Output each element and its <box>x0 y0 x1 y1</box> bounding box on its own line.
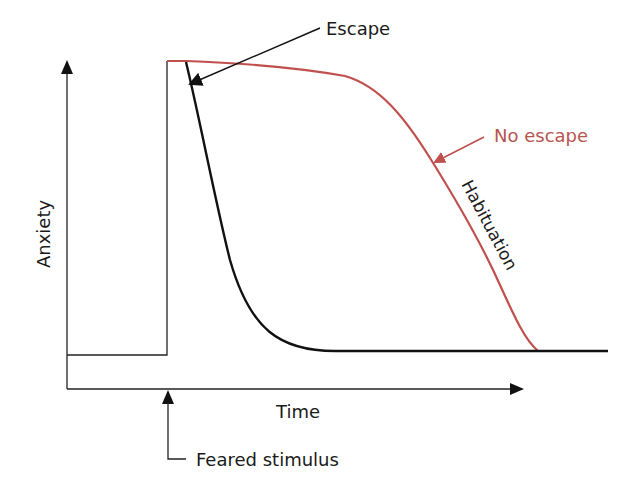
no-escape-arrow-icon <box>435 137 484 162</box>
x-axis-arrow-icon <box>510 383 524 395</box>
feared-stimulus-label: Feared stimulus <box>196 449 339 470</box>
y-axis-arrow-icon <box>61 60 73 74</box>
y-axis <box>61 60 73 389</box>
y-axis-label: Anxiety <box>33 199 54 268</box>
baseline-step <box>67 61 167 355</box>
x-axis <box>67 383 524 395</box>
feared-stimulus-marker <box>162 390 186 459</box>
escape-curve <box>186 62 608 351</box>
anxiety-habituation-diagram: Escape No escape Habituation Anxiety Tim… <box>0 0 635 492</box>
x-axis-label: Time <box>275 401 320 422</box>
no-escape-curve <box>167 61 608 351</box>
no-escape-label: No escape <box>494 125 588 146</box>
escape-label: Escape <box>326 18 390 39</box>
habituation-label: Habituation <box>457 176 521 273</box>
stimulus-arrow-icon <box>162 390 174 404</box>
escape-arrow-icon <box>190 28 320 84</box>
